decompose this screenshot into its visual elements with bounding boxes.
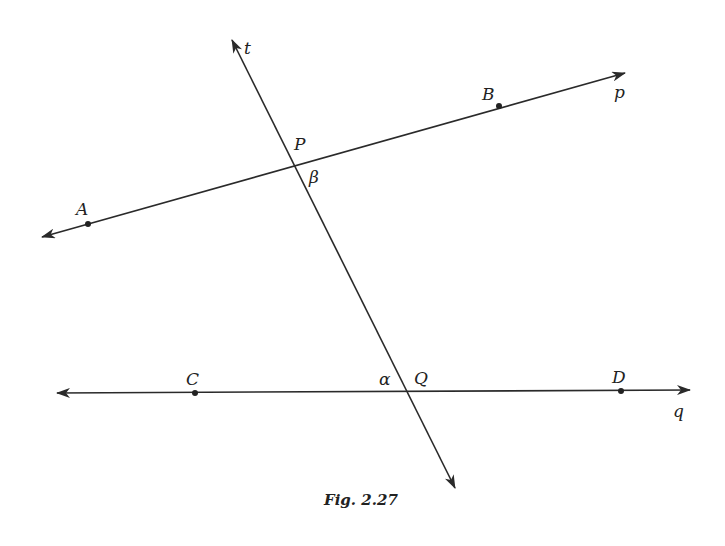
line-p: [42, 73, 625, 237]
point-d: [618, 388, 624, 394]
label-t: t: [244, 40, 251, 57]
point-c: [192, 390, 198, 396]
angle-beta: β: [309, 169, 319, 186]
figure-caption: Fig. 2.27: [324, 491, 398, 509]
label-q-point: Q: [414, 370, 428, 387]
label-p: p: [614, 84, 625, 101]
point-a: [85, 221, 91, 227]
label-q: q: [673, 403, 684, 420]
label-d: D: [612, 369, 626, 386]
line-q: [57, 390, 690, 393]
label-b: B: [482, 86, 495, 103]
point-b: [496, 103, 502, 109]
line-t: [232, 40, 455, 488]
label-a: A: [76, 201, 88, 218]
figure-canvas: t p q A B C D P Q β α Fig. 2.27: [0, 0, 725, 546]
angle-alpha: α: [379, 371, 390, 388]
label-p-point: P: [294, 136, 305, 153]
label-c: C: [186, 371, 199, 388]
